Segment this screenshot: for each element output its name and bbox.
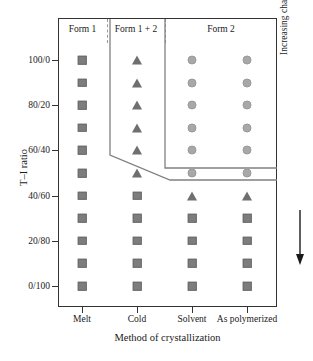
x-axis-title: Method of crystallization <box>58 332 277 343</box>
y-tick <box>52 150 58 151</box>
x-tick <box>192 307 193 313</box>
data-marker-square <box>243 214 252 223</box>
data-marker-triangle <box>132 123 142 132</box>
y-axis-title: T–I ratio <box>18 123 29 213</box>
data-marker-triangle <box>132 169 142 178</box>
region-label-form1plus2: Form 1 + 2 <box>107 24 165 34</box>
data-marker-circle <box>243 123 252 132</box>
data-marker-square <box>78 214 87 223</box>
data-marker-square <box>78 282 87 291</box>
data-marker-circle <box>188 101 197 110</box>
x-tick <box>247 307 248 313</box>
data-marker-triangle <box>187 191 197 200</box>
data-marker-square <box>78 101 87 110</box>
data-marker-square <box>78 191 87 200</box>
x-tick-label: Cold <box>128 314 146 324</box>
x-tick-label: Melt <box>73 314 91 324</box>
y-tick-label: 100/0 <box>28 55 50 65</box>
y-tick <box>52 241 58 242</box>
data-marker-triangle <box>132 101 142 110</box>
y-tick-label: 60/40 <box>28 145 50 155</box>
data-marker-square <box>78 259 87 268</box>
y-tick-label: 40/60 <box>28 191 50 201</box>
data-marker-triangle <box>132 146 142 155</box>
x-tick-label: As polymerized <box>217 314 277 324</box>
flexibility-down-arrow-icon <box>294 210 306 265</box>
region-label-form2: Form 2 <box>165 24 277 34</box>
region-label-form1: Form 1 <box>58 24 107 34</box>
divider-form1-form12 <box>107 19 108 43</box>
data-marker-square <box>243 282 252 291</box>
y-tick <box>52 286 58 287</box>
data-marker-square <box>78 237 87 246</box>
data-marker-square <box>188 237 197 246</box>
data-marker-square <box>78 146 87 155</box>
data-marker-circle <box>243 169 252 178</box>
x-tick <box>137 307 138 313</box>
data-marker-square <box>188 282 197 291</box>
data-marker-square <box>78 124 87 133</box>
divider-form12-form2 <box>165 19 166 43</box>
y-tick <box>52 105 58 106</box>
x-tick-label: Solvent <box>177 314 206 324</box>
data-marker-triangle <box>132 78 142 87</box>
data-marker-square <box>78 78 87 87</box>
x-tick <box>82 307 83 313</box>
y-tick-label: 80/20 <box>28 100 50 110</box>
data-marker-circle <box>188 169 197 178</box>
data-marker-square <box>133 259 142 268</box>
data-marker-square <box>78 169 87 178</box>
data-marker-triangle <box>132 56 142 65</box>
data-marker-circle <box>188 56 197 65</box>
data-marker-triangle <box>242 191 252 200</box>
data-marker-square <box>243 237 252 246</box>
data-marker-square <box>133 214 142 223</box>
flexibility-annotation-label: Increasing chain flexibility <box>279 0 289 55</box>
data-marker-circle <box>188 146 197 155</box>
data-marker-square <box>243 259 252 268</box>
data-marker-square <box>188 214 197 223</box>
data-marker-square <box>133 191 142 200</box>
data-marker-circle <box>188 78 197 87</box>
y-tick-label: 20/80 <box>28 236 50 246</box>
y-tick <box>52 196 58 197</box>
data-marker-square <box>133 237 142 246</box>
y-tick <box>52 60 58 61</box>
crystallization-form-chart: Form 1 Form 1 + 2 Form 2 100/080/2060/40… <box>0 0 313 361</box>
data-marker-circle <box>188 123 197 132</box>
data-marker-circle <box>243 146 252 155</box>
data-marker-square <box>133 282 142 291</box>
y-tick-label: 0/100 <box>28 281 50 291</box>
data-marker-square <box>188 259 197 268</box>
data-marker-square <box>78 56 87 65</box>
data-marker-circle <box>243 78 252 87</box>
data-marker-circle <box>243 56 252 65</box>
data-marker-circle <box>243 101 252 110</box>
